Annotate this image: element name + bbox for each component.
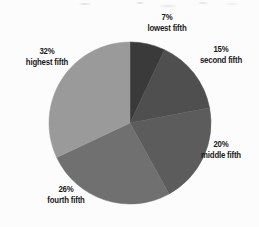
pie-label-middle-fifth-percent: 20%: [189, 139, 253, 150]
pie-label-lowest-fifth-category: lowest fifth: [131, 23, 203, 34]
pie-label-fourth-fifth-category: fourth fifth: [29, 195, 103, 206]
pie-label-middle-fifth-category: middle fifth: [189, 150, 253, 161]
pie-label-middle-fifth: 20% middle fifth: [189, 139, 253, 160]
pie-label-second-fifth-percent: 15%: [189, 44, 253, 55]
pie-label-highest-fifth-category: highest fifth: [9, 57, 84, 68]
pie-chart-figure: 7% lowest fifth 15% second fifth 20% mid…: [0, 0, 259, 227]
pie-label-highest-fifth-percent: 32%: [9, 46, 84, 57]
pie-label-second-fifth-category: second fifth: [189, 55, 253, 66]
pie-label-highest-fifth: 32% highest fifth: [9, 46, 84, 67]
pie-label-lowest-fifth-percent: 7%: [131, 12, 203, 23]
pie-label-fourth-fifth: 26% fourth fifth: [29, 184, 103, 205]
pie-label-fourth-fifth-percent: 26%: [29, 184, 103, 195]
pie-label-lowest-fifth: 7% lowest fifth: [131, 12, 203, 33]
pie-label-second-fifth: 15% second fifth: [189, 44, 253, 65]
